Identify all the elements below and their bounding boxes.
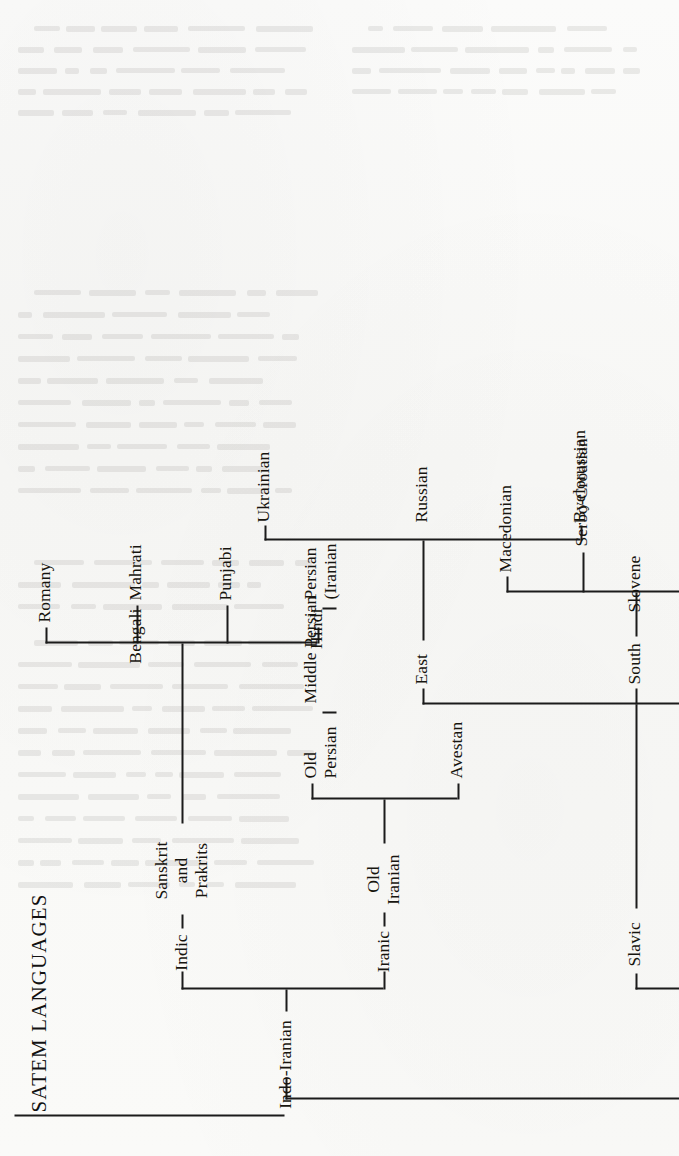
node-iranic: Iranic	[374, 930, 393, 971]
persian-line2: (Iranian	[319, 543, 339, 599]
root-spine	[285, 1097, 679, 1099]
south-arm-macedonian	[506, 576, 508, 592]
node-old-persian: OldPersian	[300, 726, 340, 778]
iranic-connector	[383, 912, 385, 926]
slavic-spine	[422, 702, 679, 704]
balto-slavic-arm-slavic	[635, 973, 637, 989]
title-rule	[14, 1114, 284, 1116]
south-arm-serbo-croatian	[582, 552, 584, 592]
middle-to-modern-persian-connector	[322, 607, 336, 609]
node-romany: Romany	[34, 562, 53, 622]
prakrits-line: Prakrits	[190, 842, 210, 897]
node-slovene: Slovene	[624, 555, 643, 612]
old-iranian-arm-avestan	[457, 783, 459, 799]
and-line: and	[170, 857, 190, 883]
indic-arm-romany	[45, 627, 47, 643]
old-iranian-line1: Old	[362, 866, 382, 893]
node-slavic: Slavic	[624, 922, 643, 966]
node-persian-iranian: Persian(Iranian	[300, 543, 340, 599]
sanskrit-to-indic-modern-rule	[181, 643, 183, 823]
node-bengali: Bengali	[125, 608, 144, 663]
slavic-to-branches-rule	[635, 704, 637, 908]
node-macedonian: Macedonian	[495, 485, 514, 573]
node-east: East	[411, 653, 430, 684]
old-iranian-spine	[311, 797, 457, 799]
slavic-arm-east	[422, 688, 424, 704]
node-ukrainian: Ukrainian	[253, 451, 272, 522]
indo-iranian-arm-indic	[181, 971, 183, 989]
south-spine	[506, 590, 679, 592]
diagram-rotation-wrapper: SATEM LANGUAGES Indo-Iranian Indic Sansk…	[0, 0, 679, 1156]
indic-connector	[181, 914, 183, 928]
node-old-iranian: OldIranian	[363, 854, 403, 904]
node-punjabi: Punjabi	[215, 546, 234, 600]
old-persian-line2: Persian	[319, 726, 339, 778]
node-mahrati: Mahrati	[125, 544, 144, 600]
node-indo-iranian: Indo-Iranian	[276, 1020, 295, 1109]
old-iranian-line2: Iranian	[382, 854, 402, 904]
satem-languages-tree: SATEM LANGUAGES Indo-Iranian Indic Sansk…	[0, 0, 679, 1156]
indo-iranian-arm-iranic	[383, 971, 385, 989]
node-avestan: Avestan	[446, 721, 465, 778]
old-persian-line1: Old	[299, 751, 319, 778]
old-iranian-stem	[383, 799, 385, 843]
east-arm-ukrainian	[264, 525, 266, 540]
node-sanskrit-and-prakrits: SanskritandPrakrits	[151, 841, 211, 899]
slavic-arm-south	[635, 688, 637, 704]
node-indic: Indic	[172, 934, 191, 970]
old-iranian-arm-old-persian	[311, 783, 313, 799]
sanskrit-line: Sanskrit	[150, 841, 170, 899]
node-south: South	[624, 643, 643, 684]
node-serbo-croatian: Serbo-Croatian	[571, 438, 590, 546]
indo-iranian-stem	[285, 989, 287, 1011]
balto-slavic-spine	[635, 987, 679, 989]
page-title: SATEM LANGUAGES	[26, 893, 51, 1112]
node-russian: Russian	[411, 466, 430, 522]
east-stem	[422, 540, 424, 640]
node-middle-persian: Middle Persian	[300, 595, 319, 703]
indo-iranian-spine	[181, 987, 383, 989]
east-spine	[264, 538, 580, 540]
indic-modern-spine	[45, 641, 317, 643]
indic-arm-punjabi	[226, 605, 228, 643]
old-to-middle-persian-connector	[322, 711, 336, 713]
persian-line1: Persian	[299, 547, 319, 599]
